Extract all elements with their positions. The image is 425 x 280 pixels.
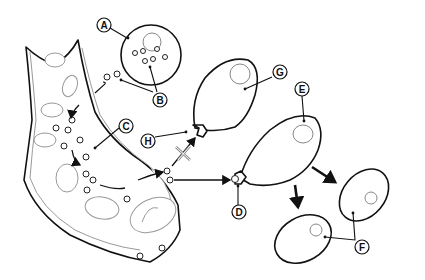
cell-g — [193, 59, 257, 137]
particle — [164, 168, 170, 174]
biology-diagram: A B C D E F G H — [0, 0, 425, 280]
svg-text:F: F — [359, 242, 365, 253]
svg-text:B: B — [156, 95, 163, 106]
label-a: A — [97, 18, 111, 32]
label-d: D — [232, 205, 246, 219]
cell-a — [121, 25, 181, 85]
svg-text:C: C — [122, 121, 129, 132]
svg-text:H: H — [144, 136, 151, 147]
daughter-cell-1 — [266, 205, 340, 273]
svg-text:G: G — [276, 67, 284, 78]
svg-text:E: E — [299, 84, 306, 95]
label-g: G — [273, 65, 287, 79]
particle — [114, 71, 120, 77]
cell-e — [232, 116, 321, 186]
label-c: C — [119, 119, 133, 133]
svg-text:A: A — [100, 20, 107, 31]
particle — [167, 177, 173, 183]
svg-text:D: D — [235, 207, 242, 218]
label-f: F — [355, 240, 369, 254]
label-h: H — [141, 134, 155, 148]
label-e: E — [295, 82, 309, 96]
daughter-cell-2 — [329, 159, 398, 230]
label-b: B — [153, 93, 167, 107]
particle — [104, 74, 110, 80]
